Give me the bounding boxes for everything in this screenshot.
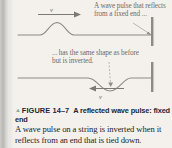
velocity-label-bottom: v [99, 93, 102, 100]
velocity-arrow-top-head [74, 12, 81, 18]
figure-caption: ▲FIGURE 14–7 A reflected wave pulse: fix… [15, 106, 170, 124]
velocity-label-top: v [50, 6, 53, 13]
figure-number: FIGURE 14–7 [22, 106, 70, 115]
annotation-incident-pulse: A wave pulse that reflects from a fixed … [94, 2, 170, 18]
string-with-trough-path [18, 78, 152, 91]
leader-arrowhead-bottom [108, 82, 113, 87]
figure-body-text: A wave pulse on a string is inverted whe… [15, 124, 171, 147]
string-with-crest-path [18, 23, 152, 36]
figure-illustration: A wave pulse that reflects from a fixed … [0, 0, 172, 104]
annotation-reflected-pulse: ... has the same shape as before but is … [52, 49, 144, 65]
caption-triangle-icon: ▲ [15, 107, 21, 113]
figure-page: A wave pulse that reflects from a fixed … [0, 0, 172, 148]
leader-line-bottom-dashed [109, 62, 111, 84]
velocity-arrow-bottom-head [89, 86, 96, 92]
